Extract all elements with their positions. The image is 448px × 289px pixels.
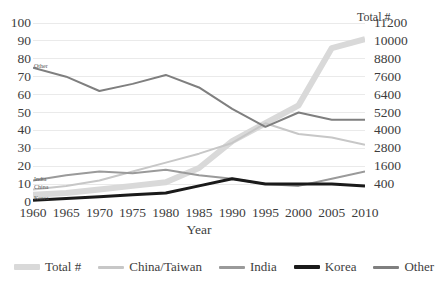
y-axis-tick-label: 50 (1, 106, 31, 120)
y-axis-secondary-tick-label: 400 (374, 177, 418, 191)
x-axis-title: Year (0, 222, 398, 237)
legend-swatch (219, 266, 245, 269)
legend-item-total[interactable]: Total # (14, 260, 81, 274)
y-axis-tick-label: 30 (1, 141, 31, 155)
plot-svg (33, 23, 365, 202)
x-axis-tick-label: 1965 (49, 205, 83, 220)
x-axis-tick-label: 2000 (282, 205, 316, 220)
x-axis-tick-label: 1975 (116, 205, 150, 220)
y-axis-left: 1009080706050403020100 (0, 0, 31, 289)
legend-swatch (294, 265, 320, 269)
x-axis-tick-label: 2005 (315, 205, 349, 220)
korea-inline-label: Korea (34, 195, 49, 201)
y-axis-tick-label: 90 (1, 34, 31, 48)
line-chart: 1009080706050403020100 11200100008800760… (0, 0, 448, 289)
y-axis-secondary-tick-label: 6400 (374, 88, 418, 102)
legend-item-india[interactable]: India (219, 260, 277, 274)
legend-swatch (373, 266, 399, 269)
x-axis-tick-label: 1960 (16, 205, 50, 220)
legend-item-other[interactable]: Other (373, 260, 434, 274)
x-axis: 1960196519701975198019851990199520002005… (33, 205, 365, 223)
legend-item-korea[interactable]: Korea (294, 260, 357, 274)
legend-swatch (14, 264, 40, 270)
y-axis-tick-label: 80 (1, 52, 31, 66)
india-inline-label: India (34, 176, 46, 182)
legend-label: India (250, 260, 277, 274)
x-axis-tick-label: 1985 (182, 205, 216, 220)
legend-label: Total # (45, 260, 81, 274)
legend-item-china-taiwan[interactable]: China/Taiwan (98, 260, 202, 274)
y-axis-secondary-tick-label: 5200 (374, 106, 418, 120)
y-axis-tick-label: 40 (1, 123, 31, 137)
plot-area (33, 23, 365, 202)
y-axis-right-secondary: 1120010000880076006400520040002800160040… (374, 0, 426, 289)
y-axis-tick-label: 10 (1, 177, 31, 191)
y-axis-tick-label: 70 (1, 70, 31, 84)
series-line-china-taiwan (33, 123, 365, 189)
y-axis-secondary-tick-label: 7600 (374, 70, 418, 84)
y-axis-secondary-tick-label: 10000 (374, 34, 418, 48)
x-axis-tick-label: 1990 (215, 205, 249, 220)
y-axis-secondary-tick-label: 1600 (374, 159, 418, 173)
x-axis-tick-label: 1995 (248, 205, 282, 220)
legend-label: Korea (325, 260, 357, 274)
y-axis-tick-label: 20 (1, 159, 31, 173)
y-axis-secondary-tick-label: 4000 (374, 123, 418, 137)
y-axis-tick-label: 100 (1, 16, 31, 30)
y-axis-tick-label: 60 (1, 88, 31, 102)
y-axis-secondary-tick-label: 8800 (374, 52, 418, 66)
china-inline-label: China (34, 184, 48, 190)
x-axis-tick-label: 1980 (149, 205, 183, 220)
x-axis-tick-label: 1970 (82, 205, 116, 220)
legend-swatch (98, 266, 124, 269)
legend-label: Other (404, 260, 434, 274)
total-axis-annotation: Total # (357, 11, 391, 23)
y-axis-secondary-tick-label: 2800 (374, 141, 418, 155)
x-axis-tick-label: 2010 (348, 205, 382, 220)
other-inline-label: Other (34, 63, 48, 69)
legend-label: China/Taiwan (129, 260, 202, 274)
chart-legend: Total #China/TaiwanIndiaKoreaOther (0, 256, 448, 278)
